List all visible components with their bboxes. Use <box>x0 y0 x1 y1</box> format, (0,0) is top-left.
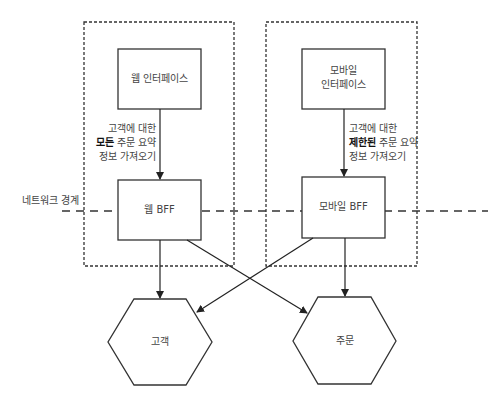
web-request-note: 고객에 대한 모든 주문 요약 정보 가져오기 <box>96 122 156 164</box>
web-note-line1: 고객에 대한 <box>96 122 156 136</box>
mobile-note-emphasis: 제한된 <box>349 137 376 148</box>
mobile-request-note: 고객에 대한 제한된 주문 요약 정보 가져오기 <box>349 122 418 164</box>
mobile-note-line3: 정보 가져오기 <box>349 150 418 164</box>
order-service-label: 주문 <box>293 334 396 348</box>
mobile-note-line2: 제한된 주문 요약 <box>349 136 418 150</box>
mobile-bff-to-customer-arrow <box>197 238 313 312</box>
network-boundary-label: 네트워크 경계 <box>22 192 79 207</box>
web-note-line2-rest: 주문 요약 <box>114 137 156 148</box>
mobile-bff-label: 모바일 BFF <box>302 200 385 214</box>
web-note-emphasis: 모든 <box>96 137 114 148</box>
mobile-interface-label-line2: 인터페이스 <box>302 78 385 92</box>
mobile-interface-label-line1: 모바일 <box>302 64 385 78</box>
mobile-note-line1: 고객에 대한 <box>349 122 418 136</box>
web-bff-label: 웹 BFF <box>118 203 201 217</box>
customer-service-label: 고객 <box>108 335 212 349</box>
mobile-interface-label: 모바일 인터페이스 <box>302 64 385 92</box>
web-note-line3: 정보 가져오기 <box>96 150 156 164</box>
mobile-note-line2-rest: 주문 요약 <box>376 137 418 148</box>
web-interface-label: 웹 인터페이스 <box>118 72 201 86</box>
web-bff-to-order-arrow <box>187 240 307 313</box>
web-note-line2: 모든 주문 요약 <box>96 136 156 150</box>
